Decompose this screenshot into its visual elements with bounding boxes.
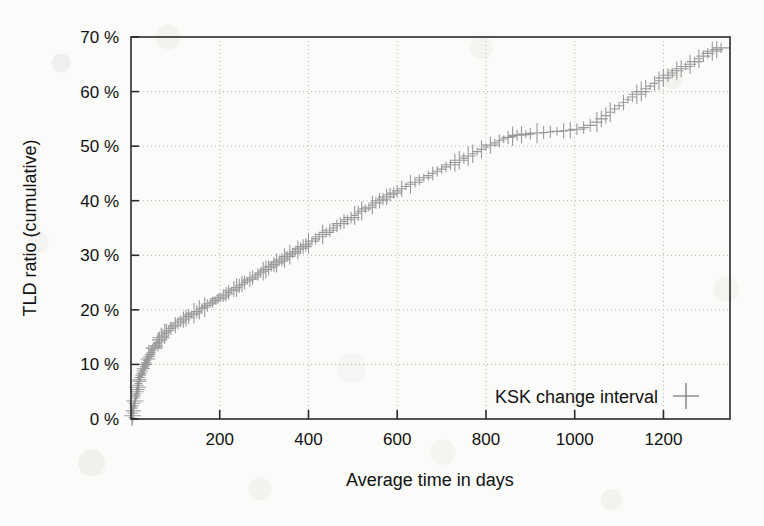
y-tick-label: 30 % [80,246,119,265]
y-tick-label: 20 % [80,301,119,320]
y-tick-label: 60 % [80,83,119,102]
series-ksk-change-interval [124,41,730,426]
x-tick-label: 200 [206,430,234,449]
x-axis-title: Average time in days [346,470,514,490]
y-tick-label: 0 % [90,410,119,429]
chart-figure: 0 %10 %20 %30 %40 %50 %60 %70 %200400600… [0,0,764,526]
x-tick-label: 1200 [645,430,683,449]
legend-entry-label[interactable]: KSK change interval [495,387,658,407]
y-axis-title: TLD ratio (cumulative) [20,139,40,316]
y-tick-label: 50 % [80,137,119,156]
x-tick-label: 1000 [556,430,594,449]
data-points [124,41,730,426]
y-tick-label: 10 % [80,355,119,374]
legend-marker-plus-icon [673,383,699,409]
tick-labels: 0 %10 %20 %30 %40 %50 %60 %70 %200400600… [80,28,682,449]
chart-legend[interactable]: KSK change interval [495,383,699,409]
y-tick-label: 40 % [80,192,119,211]
plot-canvas: 0 %10 %20 %30 %40 %50 %60 %70 %200400600… [0,0,764,526]
x-tick-label: 800 [472,430,500,449]
x-tick-label: 400 [294,430,322,449]
y-tick-label: 70 % [80,28,119,47]
x-tick-label: 600 [383,430,411,449]
